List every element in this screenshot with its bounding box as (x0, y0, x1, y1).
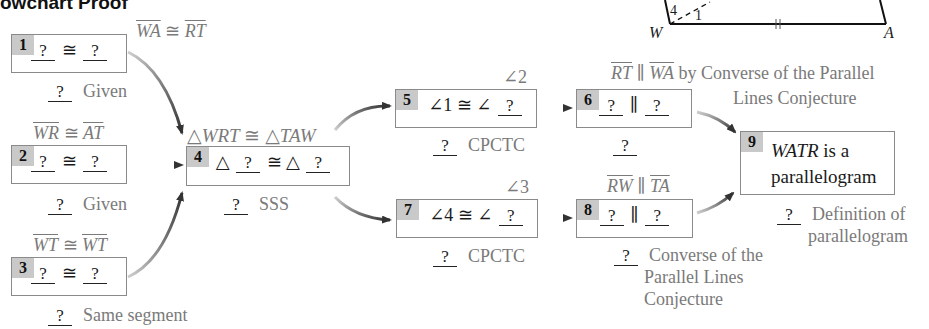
proof-box-2: 2 ? ≅ ? (11, 145, 127, 184)
reason-4: ? SSS (222, 193, 289, 215)
blank-input[interactable]: ? (48, 196, 72, 215)
arrow-4-to-7 (335, 197, 390, 220)
reason-9: ? Definition of parallelogram (775, 203, 908, 247)
blank-input[interactable]: ? (306, 154, 330, 173)
reason-1: ? Given (46, 80, 127, 102)
blank-input[interactable]: ? (600, 207, 624, 226)
proof-box-6: 6 ? ∥ ? (576, 89, 692, 128)
proof-box-4: 4 △ ? ≅ △ ? (186, 146, 350, 186)
blank-input[interactable]: ? (499, 207, 523, 226)
reason-2: ? Given (46, 193, 127, 215)
blank-input[interactable]: ? (31, 265, 55, 284)
statement: ∠1 ≅ ∠ ? (416, 94, 536, 116)
statement: ? ≅ ? (12, 39, 126, 61)
annotation-7: ∠3 (505, 176, 529, 198)
annotation-6: RT ∥ WA by Converse of the Parallel (611, 62, 875, 84)
reason-5: ? CPCTC (431, 134, 525, 156)
annotation-8: RW ∥ TA (607, 175, 670, 197)
blank-input[interactable]: ? (31, 42, 55, 61)
annotation-5: ∠2 (503, 66, 527, 88)
proof-box-1: 1 ? ≅ ? (11, 34, 127, 73)
blank-input[interactable]: ? (777, 206, 801, 225)
annotation-4: △WRT ≅ △TAW (187, 124, 316, 147)
step-number: 7 (397, 200, 419, 220)
reason-3: ? Same segment (46, 304, 187, 326)
blank-input[interactable]: ? (83, 153, 107, 172)
proof-box-9: 9 WATR is a parallelogram (740, 131, 895, 195)
arrow-1-to-4 (128, 52, 182, 133)
annotation-2: WR ≅ AT (33, 122, 103, 144)
proof-box-8: 8 ? ∥ ? (576, 199, 693, 238)
reason-8: ? Converse of the Parallel Lines Conject… (612, 244, 763, 310)
blank-input[interactable]: ? (236, 154, 260, 173)
arrow-3-to-4 (128, 193, 182, 277)
blank-input[interactable]: ? (433, 248, 457, 267)
blank-input[interactable]: ? (48, 83, 72, 102)
statement: ∠4 ≅ ∠ ? (417, 204, 537, 226)
blank-input[interactable]: ? (498, 97, 522, 116)
annotation-6-line2: Lines Conjecture (733, 88, 856, 109)
statement: △ ? ≅ △ ? (199, 151, 349, 173)
blank-input[interactable]: ? (613, 137, 637, 156)
blank-input[interactable]: ? (31, 153, 55, 172)
arrow-4-to-5 (335, 106, 390, 130)
blank-input[interactable]: ? (224, 196, 248, 215)
blank-input[interactable]: ? (645, 207, 669, 226)
statement: ? ∥ ? (577, 94, 691, 116)
blank-input[interactable]: ? (433, 137, 457, 156)
annotation-1: WA ≅ RT (136, 20, 206, 42)
blank-input[interactable]: ? (48, 307, 72, 326)
statement: ? ≅ ? (12, 150, 126, 172)
blank-input[interactable]: ? (599, 97, 623, 116)
blank-input[interactable]: ? (614, 247, 638, 266)
arrow-6-to-9 (697, 112, 735, 132)
blank-input[interactable]: ? (645, 97, 669, 116)
annotation-3: WT ≅ WT (33, 234, 107, 256)
step-number: 9 (741, 132, 763, 152)
reason-6: ? (611, 134, 639, 156)
arrow-8-to-9 (697, 193, 733, 213)
statement: ? ∥ ? (577, 204, 692, 226)
statement: ? ≅ ? (12, 262, 126, 284)
step-number: 5 (396, 90, 418, 110)
proof-box-7: 7 ∠4 ≅ ∠ ? (396, 199, 538, 238)
proof-box-5: 5 ∠1 ≅ ∠ ? (395, 89, 537, 128)
blank-input[interactable]: ? (83, 42, 107, 61)
statement: WATR is a parallelogram (771, 138, 877, 190)
proof-box-3: 3 ? ≅ ? (11, 257, 127, 296)
reason-7: ? CPCTC (431, 245, 525, 267)
blank-input[interactable]: ? (83, 265, 107, 284)
